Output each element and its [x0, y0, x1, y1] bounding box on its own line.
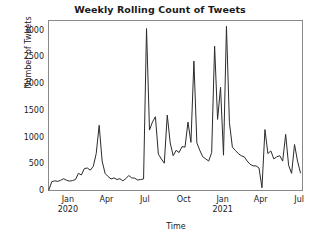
plot-svg	[48, 20, 303, 191]
x-tick-month: Jul	[294, 195, 304, 204]
x-tick-year: 2020	[38, 205, 98, 215]
x-tick-month: Jan	[62, 195, 74, 204]
x-tick-year: 2021	[193, 205, 253, 215]
x-tick-month: Oct	[177, 195, 191, 204]
x-tick-month: Jan	[216, 195, 228, 204]
x-tick-label: Jul	[269, 195, 320, 205]
x-tick-month: Apr	[99, 195, 113, 204]
data-series-line	[49, 26, 301, 190]
x-tick-month: Apr	[254, 195, 268, 204]
axes-spines	[48, 20, 303, 191]
x-tick-month: Jul	[140, 195, 150, 204]
plot-area	[48, 20, 303, 191]
chart-figure: Weekly Rolling Count of Tweets Number of…	[0, 0, 320, 239]
